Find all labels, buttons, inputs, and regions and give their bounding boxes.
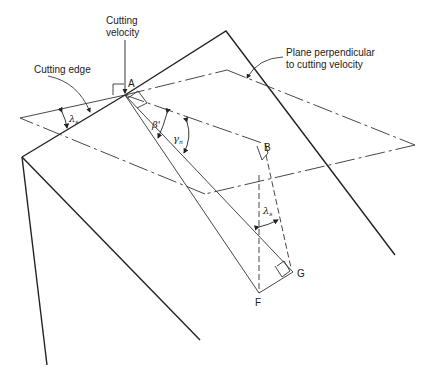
plane-leader — [247, 57, 283, 78]
point-G-label: G — [297, 268, 305, 279]
plane-label-2: to cutting velocity — [286, 59, 363, 70]
lambda-s-arc-left — [62, 112, 67, 128]
gamma-n-label: γn — [173, 133, 183, 145]
tool-body — [22, 31, 395, 365]
gamma-n-arc — [184, 122, 189, 153]
lambda-s-right-label: λs — [262, 205, 272, 217]
lambda-s-left-label: λs — [68, 113, 78, 125]
point-B-label: B — [264, 142, 271, 153]
tool-left-edge — [22, 157, 47, 365]
cutting-velocity-label-1: Cutting — [106, 15, 138, 26]
plane-label-1: Plane perpendicular — [286, 47, 376, 58]
line-FG — [259, 272, 293, 293]
point-A-label: A — [128, 78, 135, 89]
perpendicular-plane — [20, 70, 415, 194]
tool-geometry-diagram: Cutting velocity Cutting edge Plane perp… — [0, 0, 429, 386]
line-AG — [125, 95, 293, 272]
cutting-edge-label: Cutting edge — [34, 64, 91, 75]
cutting-velocity-label-2: velocity — [106, 27, 139, 38]
tool-lower-edge — [22, 157, 200, 340]
cutting-edge-leader — [48, 76, 90, 112]
beta-prime-label: β' — [151, 119, 161, 130]
lambda-s-arc-right — [259, 220, 278, 227]
point-F-label: F — [255, 297, 261, 308]
line-AB — [125, 95, 262, 143]
line-AF — [125, 95, 259, 293]
